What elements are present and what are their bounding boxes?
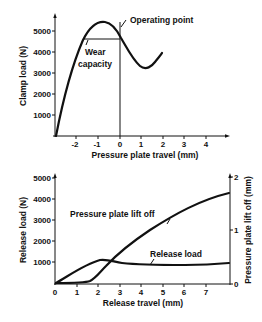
- y-ticks: 5000 4000 3000 2000 1000: [33, 27, 55, 120]
- y2-ticks: 2 1 0: [230, 173, 239, 289]
- y2-tick-label: 0: [234, 280, 239, 289]
- y-axis-arrow-icon: [53, 173, 56, 178]
- x-axis-title: Release travel (mm): [103, 298, 183, 308]
- operating-point-leader: [121, 20, 126, 27]
- x-tick-label: 0: [118, 140, 123, 149]
- y-axis-arrow-icon: [53, 13, 56, 18]
- x-tick-label: -1: [93, 140, 101, 149]
- wear-capacity-label-line1: Wear: [85, 47, 106, 57]
- x-tick-label: 0: [53, 288, 58, 297]
- x-tick-label: 7: [204, 288, 209, 297]
- y-tick-label: 5000: [33, 174, 51, 183]
- x-tick-label: 3: [182, 140, 187, 149]
- release-load-label: Release load: [150, 249, 202, 259]
- x-tick-label: 2: [161, 140, 166, 149]
- figure: 5000 4000 3000 2000 1000 -2 -1 0 1 2 3 4…: [0, 0, 262, 322]
- y-tick-label: 4000: [33, 48, 51, 57]
- x-tick-label: 4: [204, 140, 209, 149]
- y2-tick-label: 1: [234, 226, 239, 235]
- x-axis-title: Pressure plate travel (mm): [92, 150, 199, 160]
- operating-point-label: Operating point: [130, 15, 193, 25]
- y-axis-title: Release load (N): [18, 197, 28, 263]
- y-tick-label: 3000: [33, 216, 51, 225]
- y-tick-label: 3000: [33, 69, 51, 78]
- pressure-plate-lift-off-curve: [56, 193, 229, 283]
- y-axis-title: Clamp load (N): [18, 46, 28, 106]
- x-tick-label: 5: [161, 288, 166, 297]
- y2-axis-title: Pressure plate lift off (mm): [243, 176, 253, 284]
- x-tick-label: 1: [75, 288, 80, 297]
- wear-capacity-leader: [86, 40, 88, 45]
- x-tick-label: 3: [118, 288, 123, 297]
- wear-capacity-label-line2: capacity: [78, 59, 112, 69]
- x-axis-arrow-icon: [225, 134, 230, 137]
- release-load-curve: [56, 260, 229, 283]
- x-tick-label: 1: [139, 140, 144, 149]
- clamp-load-chart: 5000 4000 3000 2000 1000 -2 -1 0 1 2 3 4…: [18, 13, 230, 160]
- x-tick-label: -2: [71, 140, 79, 149]
- y-tick-label: 1000: [33, 111, 51, 120]
- y-tick-label: 5000: [33, 27, 51, 36]
- y2-tick-label: 2: [234, 173, 239, 182]
- y-tick-label: 2000: [33, 237, 51, 246]
- y-tick-label: 2000: [33, 90, 51, 99]
- y-tick-label: 1000: [33, 258, 51, 267]
- x-tick-label: 6: [182, 288, 187, 297]
- x-tick-label: 4: [139, 288, 144, 297]
- release-load-chart: 5000 4000 3000 2000 1000 2 1 0 0 1 2: [18, 173, 253, 308]
- x-ticks: 0 1 2 3 4 5 6 7: [53, 284, 209, 297]
- lift-off-label: Pressure plate lift off: [70, 209, 155, 219]
- y-tick-label: 4000: [33, 195, 51, 204]
- x-ticks: -2 -1 0 1 2 3 4: [71, 136, 208, 149]
- x-tick-label: 2: [96, 288, 101, 297]
- y-ticks: 5000 4000 3000 2000 1000: [33, 174, 55, 267]
